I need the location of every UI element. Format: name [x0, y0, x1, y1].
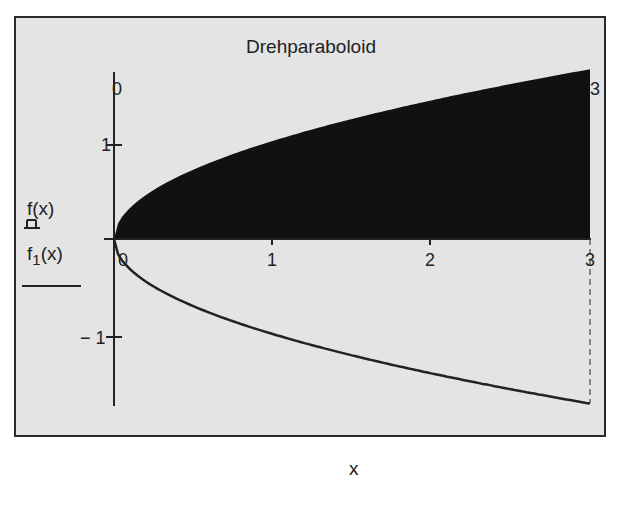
x-tick-label-2: 2 [425, 250, 435, 271]
legend-f1-sub: 1 [32, 251, 40, 268]
legend-f-label: f(x) [27, 198, 54, 220]
legend-f1-arg: (x) [41, 243, 63, 264]
x-axis-label: x [349, 458, 359, 480]
y-range-top-left: 0 [112, 79, 122, 100]
plot-area [0, 0, 622, 519]
y-tick-label-minus-1: − 1 [80, 328, 106, 349]
y-tick-label-1: 1 [101, 135, 111, 156]
x-tick-label-0: 0 [118, 250, 128, 271]
f1-curve [114, 239, 590, 404]
x-tick-label-3: 3 [585, 250, 595, 271]
legend-f1-label: f1(x) [27, 243, 63, 268]
f-area-polygon [114, 69, 590, 239]
legend-f1-line-sample [22, 285, 81, 287]
y-range-top-right: 3 [590, 79, 600, 100]
chart-title: Drehparaboloid [0, 36, 622, 58]
f-area-fill [114, 69, 590, 239]
x-tick-label-1: 1 [267, 250, 277, 271]
